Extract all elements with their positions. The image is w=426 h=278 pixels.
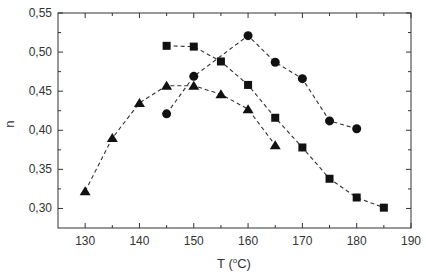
square-marker	[353, 194, 361, 202]
circle-marker	[352, 124, 361, 133]
triangle-marker	[215, 89, 226, 98]
circle-marker	[271, 58, 280, 67]
y-tick-label: 0,45	[29, 84, 53, 98]
x-tick-label: 150	[184, 234, 204, 248]
x-tick-label: 190	[401, 234, 421, 248]
x-tick-label: 180	[347, 234, 367, 248]
x-tick-label: 140	[129, 234, 149, 248]
y-tick-label: 0,35	[29, 162, 53, 176]
y-tick-label: 0,55	[29, 6, 53, 20]
circle-marker	[189, 72, 198, 81]
circle-marker	[325, 116, 334, 125]
square-marker	[217, 57, 225, 65]
circle-marker	[244, 31, 253, 40]
y-tick-label: 0,30	[29, 201, 53, 215]
triangle-marker	[134, 98, 145, 107]
square-marker	[380, 204, 388, 212]
square-marker	[326, 175, 334, 183]
square-marker	[271, 114, 279, 122]
plot-axes: 1301401501601701801900,300,350,400,450,5…	[29, 6, 422, 248]
x-tick-label: 130	[75, 234, 95, 248]
line-chart: 1301401501601701801900,300,350,400,450,5…	[0, 0, 426, 278]
circle-marker	[298, 74, 307, 83]
x-tick-label: 160	[238, 234, 258, 248]
x-tick-label: 170	[292, 234, 312, 248]
square-marker	[244, 81, 252, 89]
y-axis-label: n	[2, 120, 17, 127]
square-marker	[190, 43, 198, 51]
triangle-marker	[107, 133, 118, 142]
triangle-marker	[80, 186, 91, 195]
triangle-marker	[188, 81, 199, 90]
square-marker	[298, 143, 306, 151]
y-tick-label: 0,50	[29, 45, 53, 59]
data-series	[80, 31, 388, 212]
x-axis-label: T (oC)	[217, 256, 251, 271]
y-tick-label: 0,40	[29, 123, 53, 137]
series-triangles	[80, 81, 281, 196]
triangle-marker	[243, 104, 254, 113]
square-marker	[163, 42, 171, 50]
triangle-marker	[270, 140, 281, 149]
circle-marker	[162, 109, 171, 118]
